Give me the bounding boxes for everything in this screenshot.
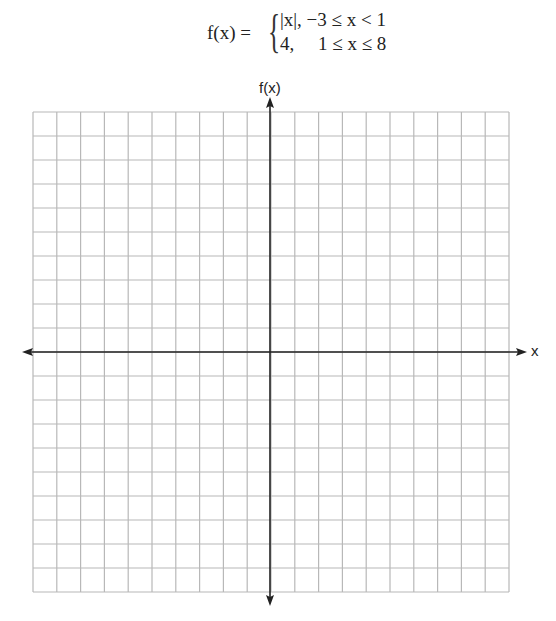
x-axis-label: x <box>531 342 539 359</box>
y-axis-label: f(x) <box>259 79 281 96</box>
